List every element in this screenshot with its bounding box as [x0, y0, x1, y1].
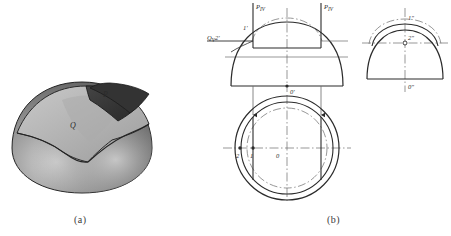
top-view-point-1-label: 1	[250, 152, 253, 159]
pictorial-hemisphere: P Q	[12, 82, 152, 193]
front-view-trace-right-label: PIV	[323, 3, 334, 12]
top-view-point-1	[251, 146, 254, 149]
top-view-point-2	[238, 146, 241, 149]
front-view-plane-q-label: QV2'	[207, 34, 220, 43]
top-view: 2 1 0	[223, 95, 351, 203]
front-view-center-label: 0'	[290, 88, 295, 95]
side-view-point-2	[403, 41, 407, 45]
figure-container: P Q	[0, 0, 451, 236]
label-p: P	[102, 90, 108, 99]
caption-a: (a)	[74, 214, 87, 225]
top-view-center-label: 0	[276, 152, 280, 159]
front-view: PIV PIV QV2' 1' 0'	[207, 3, 348, 95]
figure-svg: P Q	[0, 0, 451, 236]
side-view-point-1-label: 1″	[408, 14, 414, 21]
side-view: 1″ 2″ 0″	[362, 8, 448, 92]
top-view-point-2-label: 2	[236, 152, 240, 159]
side-view-center-label: 0″	[408, 83, 414, 90]
label-q: Q	[70, 121, 76, 130]
front-view-center-point	[285, 84, 288, 87]
caption-b: (b)	[327, 214, 340, 225]
front-view-q-leader	[231, 41, 253, 52]
side-view-point-2-label: 2″	[408, 34, 414, 41]
front-view-trace-left-label: PIV	[255, 3, 266, 12]
orthographic-projection: PIV PIV QV2' 1' 0'	[207, 3, 448, 203]
front-view-point-1-label: 1'	[243, 24, 248, 31]
